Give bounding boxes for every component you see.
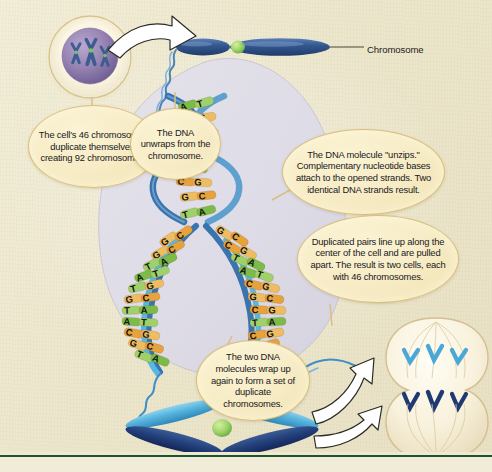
svg-text:G: G xyxy=(268,304,276,315)
base-pair-tile: G xyxy=(267,304,286,316)
svg-text:C: C xyxy=(198,190,206,202)
callout-text: The two DNA molecules wrap up again to f… xyxy=(206,351,300,409)
base-pair-tile: T xyxy=(194,94,215,110)
svg-text:G: G xyxy=(181,191,189,203)
bottom-rule xyxy=(0,455,492,472)
base-pair-tile: T xyxy=(139,316,159,328)
svg-text:G: G xyxy=(125,293,134,305)
base-pair-tile: C xyxy=(250,304,269,316)
base-pair-tile: T xyxy=(122,304,141,316)
svg-text:A: A xyxy=(268,316,276,327)
chromosome-label: Chromosome xyxy=(367,44,424,55)
base-pair-tile: C xyxy=(196,189,216,202)
callout-dna-unwraps[interactable]: The DNA unwraps from the chromosome. xyxy=(130,108,221,180)
base-pair-tile: A xyxy=(149,351,171,368)
callout-text: The DNA unwraps from the chromosome. xyxy=(140,127,211,162)
base-pair-tile: C xyxy=(264,292,284,306)
svg-text:C: C xyxy=(251,304,258,315)
base-pair-tile: G xyxy=(264,326,285,340)
callout-text: Duplicated pairs line up along the cente… xyxy=(307,236,449,283)
svg-text:T: T xyxy=(141,316,148,327)
base-pair-tile: G xyxy=(179,190,199,203)
callout-text: The DNA molecule "unzips." Complementary… xyxy=(292,149,435,196)
svg-text:A: A xyxy=(140,304,147,315)
base-pair-tile: A xyxy=(267,315,287,327)
callout-dna-rewraps[interactable]: The two DNA molecules wrap up again to f… xyxy=(196,340,310,421)
base-pair-tile: A xyxy=(122,315,142,327)
base-pair-tile: A xyxy=(196,203,217,218)
base-pair-tile: A xyxy=(139,304,158,316)
svg-text:T: T xyxy=(124,305,130,316)
base-pair-tile: T xyxy=(250,316,270,328)
svg-text:G: G xyxy=(249,291,258,303)
svg-text:T: T xyxy=(252,317,259,328)
dna-replication-figure: ATCGGCTATACGGCTAGCGCTAATTGGCTAATCGGCTAGC… xyxy=(0,0,492,472)
svg-text:G: G xyxy=(194,176,202,187)
base-pair-tile: G xyxy=(247,290,267,304)
base-pair-tile: G xyxy=(193,176,213,188)
callout-dna-unzips[interactable]: The DNA molecule "unzips." Complementary… xyxy=(282,129,445,215)
callout-duplicated-pairs[interactable]: Duplicated pairs line up along the cente… xyxy=(297,215,459,303)
base-pair-tile: C xyxy=(140,290,160,304)
base-pair-tile: C xyxy=(173,223,195,243)
